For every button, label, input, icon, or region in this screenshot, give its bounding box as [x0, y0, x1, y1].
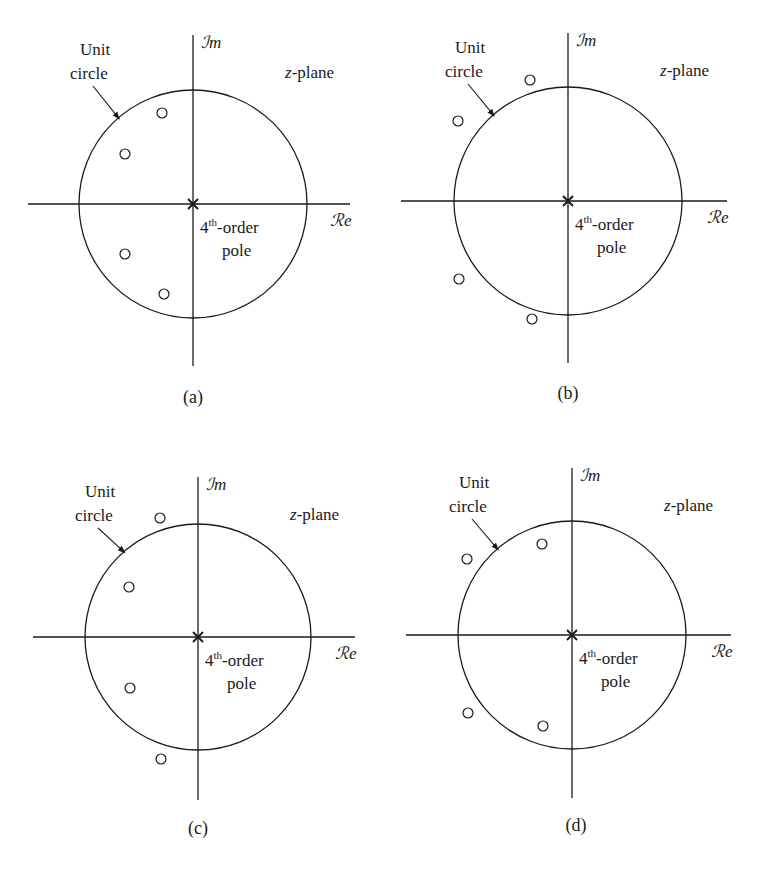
panel-caption: (d) [566, 815, 587, 836]
real-axis-label: ℛe [335, 644, 357, 663]
arrow-icon [472, 519, 498, 550]
zero-marker [463, 708, 473, 718]
pole-order-label: 4th-order [575, 213, 634, 234]
panel-d: ℐmℛez-planeUnitcircle4th-orderpole(d) [406, 466, 733, 836]
unit-circle-label-line2: circle [75, 506, 113, 525]
z-plane-label: z-plane [289, 505, 339, 524]
imag-axis-label: ℐm [580, 466, 600, 485]
zero-marker [120, 149, 130, 159]
panel-a: ℐmℛez-planeUnitcircle4th-orderpole(a) [28, 33, 352, 408]
arrow-icon [98, 528, 125, 553]
unit-circle-label: Unit [85, 482, 116, 501]
real-axis-label: ℛe [711, 642, 733, 661]
z-plane-label: z-plane [284, 63, 334, 82]
pole-label-line2: pole [601, 672, 630, 691]
zero-marker [125, 683, 135, 693]
zero-marker [155, 513, 165, 523]
unit-circle-label-line2: circle [449, 497, 487, 516]
real-axis-label: ℛe [330, 211, 352, 230]
panel-c: ℐmℛez-planeUnitcircle4th-orderpole(c) [33, 475, 357, 839]
zero-marker [538, 721, 548, 731]
panel-caption: (c) [188, 818, 208, 839]
zero-marker [124, 582, 134, 592]
imag-axis-label: ℐm [201, 33, 221, 52]
zero-marker [527, 314, 537, 324]
zero-marker [156, 754, 166, 764]
zero-marker [159, 289, 169, 299]
unit-circle-label: Unit [80, 40, 111, 59]
z-plane-label: z-plane [663, 496, 713, 515]
zero-marker [454, 274, 464, 284]
pole-label-line2: pole [597, 238, 626, 257]
unit-circle-label-line2: circle [70, 64, 108, 83]
pole-order-label: 4th-order [205, 649, 264, 670]
unit-circle-label: Unit [459, 473, 490, 492]
imag-axis-label: ℐm [576, 31, 596, 50]
pole-order-label: 4th-order [200, 216, 259, 237]
pole-zero-figure: ℐmℛez-planeUnitcircle4th-orderpole(a)ℐmℛ… [0, 0, 757, 869]
panel-b: ℐmℛez-planeUnitcircle4th-orderpole(b) [401, 31, 729, 404]
z-plane-label: z-plane [659, 61, 709, 80]
zero-marker [453, 116, 463, 126]
real-axis-label: ℛe [707, 208, 729, 227]
unit-circle-label: Unit [455, 38, 486, 57]
unit-circle-label-line2: circle [445, 62, 483, 81]
zero-marker [157, 108, 167, 118]
arrow-icon [93, 86, 119, 119]
pole-label-line2: pole [222, 241, 251, 260]
pole-label-line2: pole [227, 674, 256, 693]
zero-marker [537, 539, 547, 549]
zero-marker [120, 249, 130, 259]
zero-marker [525, 75, 535, 85]
panel-caption: (a) [183, 387, 203, 408]
arrow-icon [468, 84, 494, 116]
zero-marker [462, 554, 472, 564]
imag-axis-label: ℐm [206, 475, 226, 494]
pole-order-label: 4th-order [579, 647, 638, 668]
panel-caption: (b) [558, 383, 579, 404]
